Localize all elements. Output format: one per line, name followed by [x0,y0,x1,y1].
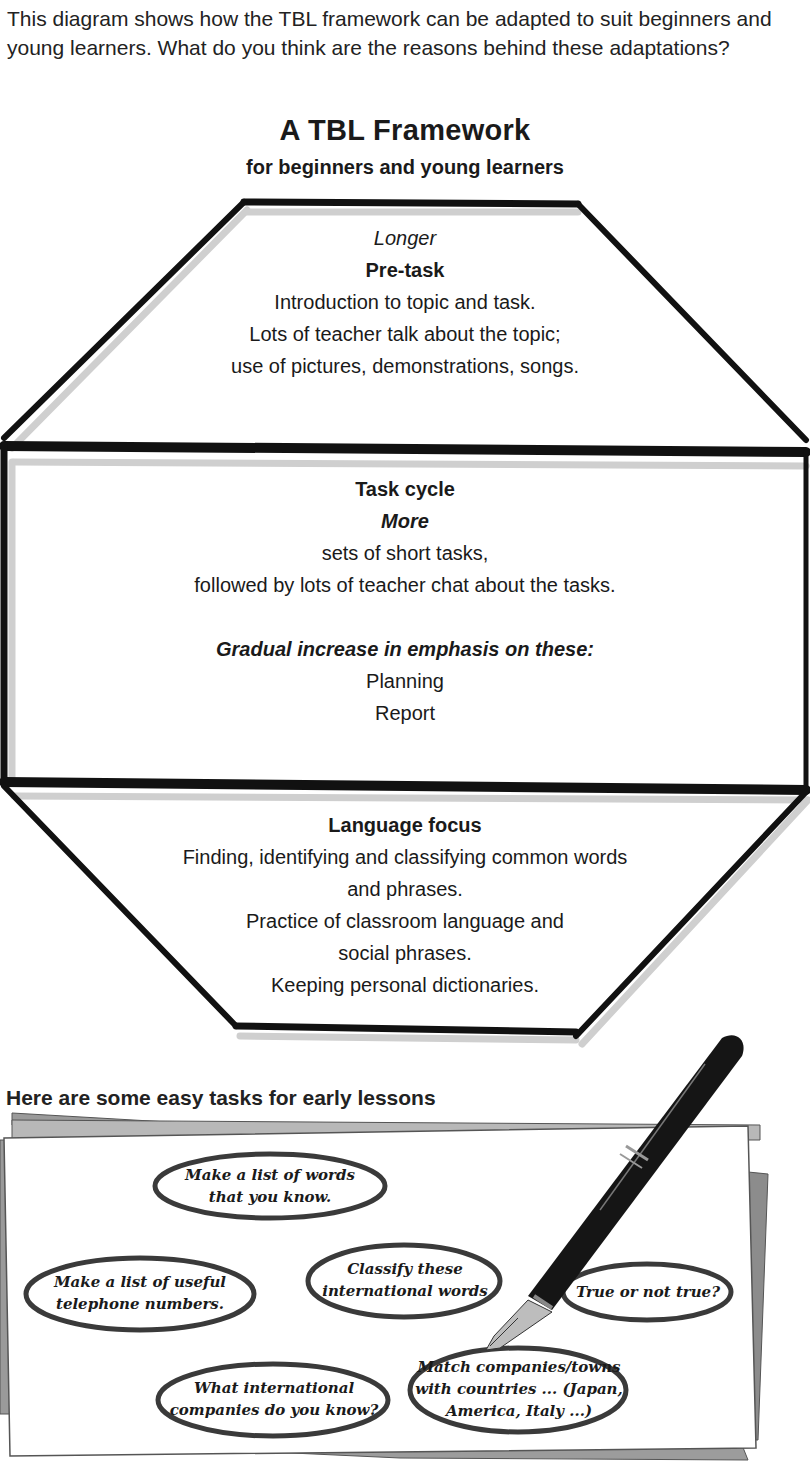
bubble-line: Make a list of words [160,1164,380,1186]
task-bubble: True or not true? [566,1281,730,1303]
pretask-modifier: Longer [0,222,810,254]
language-focus-line: Practice of classroom language and [0,905,810,937]
bubble-line: telephone numbers. [30,1293,250,1315]
language-focus-line: Keeping personal dictionaries. [0,969,810,1001]
task-cycle-line: sets of short tasks, [0,537,810,569]
language-focus-line: and phrases. [0,873,810,905]
task-bubble: Make a list of useful telephone numbers. [30,1271,250,1315]
pretask-heading: Pre-task [0,254,810,286]
emphasis-heading: Gradual increase in emphasis on these: [0,633,810,665]
emphasis-item-planning: Planning [0,665,810,697]
bubble-line: companies do you know? [162,1399,386,1421]
bubble-line: that you know. [160,1186,380,1208]
language-focus-line: Finding, identifying and classifying com… [0,841,810,873]
task-bubble: What international companies do you know… [162,1377,386,1421]
bubble-line: Classify these [310,1258,500,1280]
task-cycle-heading: Task cycle [0,473,810,505]
language-focus-heading: Language focus [0,809,810,841]
language-focus-section: Language focus Finding, identifying and … [0,809,810,1001]
bubble-line: with countries ... (Japan, [414,1378,624,1400]
task-cycle-section: Task cycle More sets of short tasks, fol… [0,473,810,729]
bubble-line: True or not true? [566,1281,730,1303]
language-focus-line: social phrases. [0,937,810,969]
task-bubble: Classify these international words [310,1258,500,1302]
bubble-line: Match companies/towns [414,1356,624,1378]
bubble-line: What international [162,1377,386,1399]
pretask-line: Lots of teacher talk about the topic; [0,318,810,350]
pretask-section: Longer Pre-task Introduction to topic an… [0,222,810,382]
easy-tasks-heading: Here are some easy tasks for early lesso… [6,1086,436,1110]
bubble-line: Make a list of useful [30,1271,250,1293]
bubble-line: international words [310,1280,500,1302]
pretask-line: use of pictures, demonstrations, songs. [0,350,810,382]
task-cycle-line: followed by lots of teacher chat about t… [0,569,810,601]
pretask-line: Introduction to topic and task. [0,286,810,318]
bubble-line: America, Italy ...) [414,1400,624,1422]
emphasis-item-report: Report [0,697,810,729]
task-cycle-modifier: More [0,505,810,537]
task-bubble: Make a list of words that you know. [160,1164,380,1208]
task-bubble: Match companies/towns with countries ...… [414,1356,624,1422]
